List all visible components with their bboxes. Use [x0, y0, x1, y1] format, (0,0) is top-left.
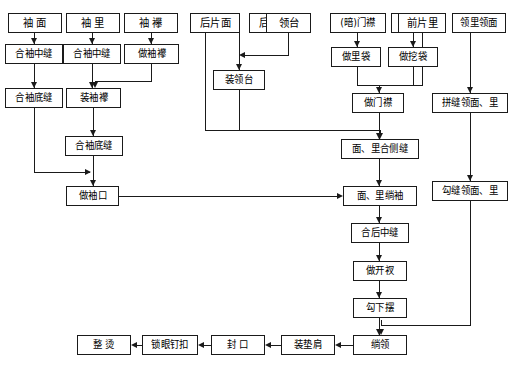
node-label: 做袖襻	[137, 49, 165, 59]
node-make-inner-pocket[interactable]: 做里袋	[331, 47, 381, 67]
node-back-panel-face[interactable]: 后片面	[190, 13, 240, 33]
node-stitch-collar-face-lining[interactable]: 勾缝领面、里	[432, 181, 508, 201]
edge-make-tab-left	[95, 81, 152, 82]
node-label: 绱领	[371, 340, 390, 350]
node-label: 领台	[278, 18, 299, 29]
node-join-sleeve-underseam-1[interactable]: 合袖底缝	[5, 88, 63, 108]
edge-piecing-to-stitching	[470, 113, 471, 181]
edge-front-lining-left	[379, 85, 423, 86]
edge-cuff-to-setsleeves	[119, 196, 338, 197]
node-stitch-hem[interactable]: 勾下摆	[353, 298, 407, 318]
edge-underseam-left-down	[34, 108, 35, 172]
node-label: 合袖底缝	[75, 141, 113, 151]
node-label: 做开衩	[366, 266, 394, 276]
node-label: 封 口	[227, 340, 249, 350]
node-collar-stand[interactable]: 领台	[266, 13, 311, 33]
node-label: 装袖襻	[79, 93, 107, 103]
node-join-sleeve-center-2[interactable]: 合袖中缝	[63, 44, 121, 64]
node-label: 拼缝领面、里	[442, 98, 498, 108]
edge-attach-stand-down	[239, 90, 240, 130]
node-label: 面、里绱袖	[357, 191, 404, 201]
node-sleeve-tab[interactable]: 袖 襻	[124, 13, 178, 33]
arrowhead-left	[198, 342, 204, 348]
node-sleeve-face[interactable]: 袖 面	[8, 13, 62, 33]
edge-collar-stand-left	[242, 55, 289, 56]
node-label: 袖 里	[81, 18, 105, 29]
node-label: 袖 襻	[139, 18, 163, 29]
node-join-sleeve-underseam-2[interactable]: 合袖底缝	[65, 136, 123, 156]
node-label: 合后中缝	[361, 228, 399, 238]
node-label: 勾缝领面、里	[442, 186, 498, 196]
node-label: 做挖袋	[399, 52, 427, 62]
node-join-sleeve-center-1[interactable]: 合袖中缝	[5, 44, 63, 64]
node-label: (暗)门襟	[340, 18, 376, 28]
node-label: 领里领面	[460, 18, 498, 28]
node-close-openings[interactable]: 封 口	[211, 335, 265, 355]
node-label: 整 烫	[93, 340, 115, 350]
node-label: 装领台	[225, 75, 253, 85]
node-final-press[interactable]: 整 烫	[77, 335, 131, 355]
node-label: 做里袋	[342, 52, 370, 62]
node-qianpianli[interactable]: 前片里	[398, 13, 446, 33]
node-buttonholes-buttons[interactable]: 锁眼钉扣	[142, 335, 198, 355]
node-make-cuff[interactable]: 做袖口	[66, 186, 119, 206]
edge-back-face-right	[205, 130, 380, 131]
arrowhead-left	[131, 342, 137, 348]
node-label: 做门襟	[364, 98, 392, 108]
node-label: 合袖中缝	[15, 49, 53, 59]
edge-stitching-down	[470, 201, 471, 325]
node-make-placket[interactable]: 做门襟	[352, 93, 404, 113]
node-label: 做袖口	[78, 191, 106, 201]
edge-welt-pocket-down	[413, 67, 414, 85]
node-sleeve-lining[interactable]: 袖 里	[66, 13, 120, 33]
node-attach-collar-stand[interactable]: 装领台	[213, 70, 265, 90]
node-label: 合袖中缝	[73, 49, 111, 59]
edge-back-face-down	[205, 33, 206, 130]
node-attach-collar[interactable]: 绱领	[353, 335, 407, 355]
node-label: 前片里	[406, 18, 437, 29]
node-make-sleeve-tab[interactable]: 做袖襻	[124, 44, 179, 64]
node-set-in-sleeves[interactable]: 面、里绱袖	[343, 186, 417, 206]
node-collar-face-lining[interactable]: 领里领面	[452, 13, 506, 33]
node-make-welt-pocket[interactable]: 做挖袋	[388, 47, 438, 67]
node-label: 装垫肩	[294, 340, 322, 350]
node-hidden-placket[interactable]: (暗)门襟	[330, 13, 386, 33]
edge-inner-pocket-down	[357, 67, 358, 85]
flowchart-canvas: 袖 面 袖 里 袖 襻 后片面 后片里 领台 (暗)门襟 前片面 前片里 前片里…	[0, 0, 511, 371]
edge-inner-pocket-right	[357, 85, 379, 86]
node-join-side-seams[interactable]: 面、里合侧缝	[341, 139, 419, 159]
node-piece-collar-face-lining[interactable]: 拼缝领面、里	[432, 93, 508, 113]
edge-stitching-left	[381, 325, 471, 326]
edge-collar-pieces-to-piecing	[470, 33, 471, 93]
edge-underseam-left-right	[34, 172, 90, 173]
node-attach-sleeve-tab[interactable]: 装袖襻	[66, 88, 121, 108]
node-attach-shoulder-pads[interactable]: 装垫肩	[281, 335, 335, 355]
arrowhead-left	[265, 342, 271, 348]
arrowhead-left	[335, 342, 341, 348]
node-label: 勾下摆	[366, 303, 394, 313]
node-label: 合袖底缝	[15, 93, 53, 103]
node-join-center-back[interactable]: 合后中缝	[351, 223, 409, 243]
edge-collar-stand-down	[288, 33, 289, 55]
edge-make-tab-down	[151, 64, 152, 81]
node-label: 后片面	[199, 18, 230, 29]
node-label: 面、里合侧缝	[352, 144, 408, 154]
arrowhead-right	[85, 169, 91, 175]
edge-stitching-to-collar	[381, 320, 382, 325]
node-label: 袖 面	[23, 18, 47, 29]
node-label: 锁眼钉扣	[151, 340, 189, 350]
node-make-vent[interactable]: 做开衩	[353, 261, 407, 281]
arrowhead-left	[239, 52, 245, 58]
